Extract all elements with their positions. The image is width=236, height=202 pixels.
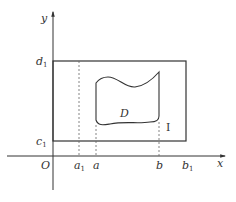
rectangle-i-label: I — [166, 121, 170, 134]
region-d-label: D — [119, 107, 129, 120]
y-tick-c1: c1 — [36, 135, 47, 149]
x-tick-b1: b1 — [182, 159, 194, 173]
x-tick-a: a — [93, 159, 100, 172]
y-axis-label: y — [40, 12, 48, 25]
y-tick-d1: d1 — [36, 55, 48, 69]
x-tick-a1: a1 — [74, 159, 85, 173]
x-axis-label: x — [217, 157, 224, 170]
x-tick-b: b — [156, 159, 163, 172]
origin-label: O — [41, 159, 50, 172]
region-diagram: y x O d1 c1 a1 a b b1 D I — [0, 0, 236, 202]
